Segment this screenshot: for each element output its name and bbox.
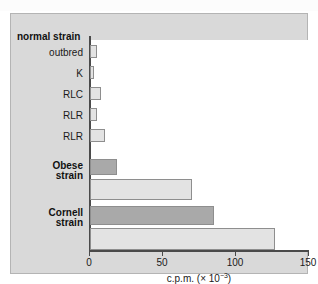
category-label-rlc: RLC [15,90,83,100]
x-tick-150 [308,252,309,256]
category-label-rlr-1: RLR [15,111,83,121]
x-axis-title-times: × 10 [200,273,220,284]
top-strip [0,0,318,11]
x-tick-label-0: 0 [86,257,92,268]
x-tick-50 [162,252,163,256]
bar-k [90,66,94,79]
x-tick-label-100: 100 [227,257,244,268]
bar-obese-light [90,179,192,200]
x-axis-title-prefix: c.p.m. ( [167,273,200,284]
bar-outbred [90,45,97,58]
category-label-obese-strain: Obese strain [15,161,83,181]
x-axis-line [89,250,309,252]
bar-cornell-light [90,228,275,250]
x-tick-100 [235,252,236,256]
category-label-column: outbred K RLC RLR RLR Obese strain Corne… [11,14,83,273]
x-axis-title-exponent: −3 [220,272,228,279]
category-label-k: K [15,69,83,79]
x-axis-title: c.p.m. (× 10−3) [90,272,308,284]
bar-rlr-1 [90,108,97,121]
bar-rlc [90,87,101,100]
category-label-obese-line2: strain [15,171,83,181]
x-axis-title-suffix: ) [228,273,231,284]
chart-panel: 0 50 100 150 c.p.m. (× 10−3) normal stra… [10,13,308,274]
x-tick-0 [89,252,90,256]
category-label-cornell-line2: strain [15,218,83,228]
category-label-cornell-strain: Cornell strain [15,208,83,228]
bar-cornell-dark [90,206,214,225]
category-label-rlr-2: RLR [15,132,83,142]
x-tick-label-50: 50 [156,257,167,268]
x-tick-label-150: 150 [300,257,317,268]
bar-obese-dark [90,159,117,175]
category-label-outbred: outbred [15,48,83,58]
bar-rlr-2 [90,129,105,142]
